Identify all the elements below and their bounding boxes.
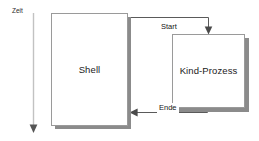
process-box-shell[interactable]: Shell [51, 13, 128, 126]
shell-shadow-right [128, 17, 131, 129]
kind-prozess-shadow-right [245, 38, 249, 112]
time-axis [30, 13, 38, 133]
process-box-kind-prozess-label: Kind-Prozess [180, 66, 238, 76]
process-box-shell-label: Shell [79, 65, 101, 75]
time-axis-arrowhead-icon [30, 125, 38, 134]
diagram-canvas: Shell Kind-Prozess Start Ende Zeit [0, 0, 259, 141]
kind-prozess-shadow-bottom [176, 108, 249, 112]
time-axis-label: Zeit [12, 8, 23, 15]
edge-label-ende: Ende [157, 103, 179, 113]
shell-shadow-bottom [55, 126, 131, 129]
edge-label-start: Start [159, 22, 179, 32]
process-box-kind-prozess[interactable]: Kind-Prozess [172, 34, 245, 108]
